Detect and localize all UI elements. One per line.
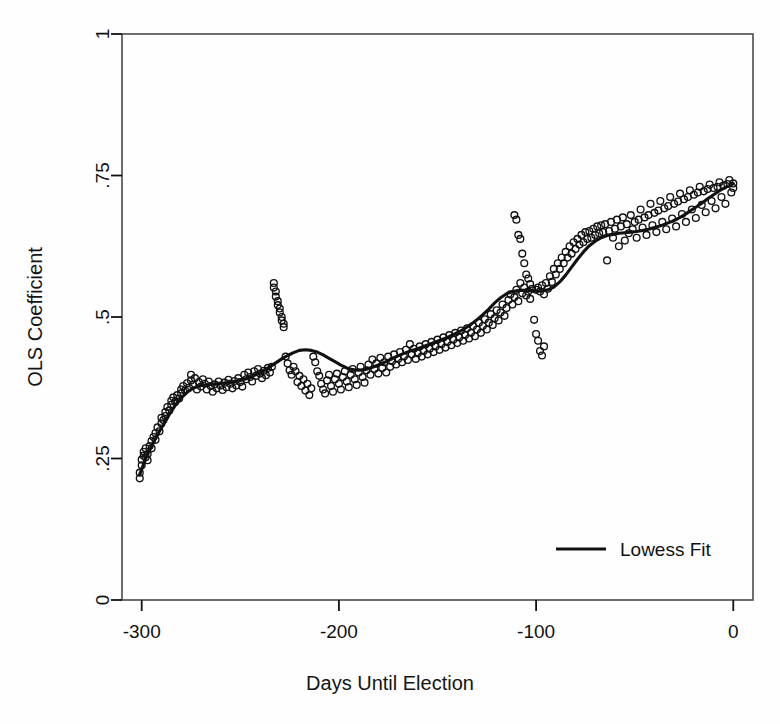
y-axis-ticks: 0.25.5.751	[92, 29, 123, 606]
data-point	[533, 331, 540, 338]
data-point	[616, 243, 623, 250]
y-tick-label: 1	[92, 29, 113, 40]
data-point	[718, 194, 725, 201]
data-point	[621, 237, 628, 244]
data-point	[637, 206, 644, 213]
data-point	[531, 316, 538, 323]
data-point	[619, 214, 626, 221]
data-point	[304, 380, 311, 387]
data-point	[692, 215, 699, 222]
data-point	[369, 356, 376, 363]
data-point	[406, 341, 413, 348]
data-point	[517, 280, 524, 287]
y-tick-label: .5	[92, 309, 113, 325]
x-tick-label: -100	[517, 621, 555, 642]
data-point	[572, 246, 579, 253]
data-point	[647, 200, 654, 207]
data-point	[521, 260, 528, 267]
data-point	[673, 223, 680, 230]
data-point	[306, 392, 313, 399]
plot-frame	[122, 34, 753, 600]
x-tick-label: -300	[123, 621, 161, 642]
data-point	[687, 187, 694, 194]
data-point	[702, 209, 709, 216]
data-point	[515, 298, 522, 305]
x-axis-ticks: -300-200-1000	[123, 600, 739, 642]
data-point	[604, 257, 611, 264]
data-point	[519, 250, 526, 257]
figure-container: -300-200-1000 0.25.5.751 Lowess Fit Days…	[0, 0, 780, 724]
data-point	[541, 343, 548, 350]
data-point	[308, 385, 315, 392]
data-point	[377, 354, 384, 361]
data-point	[683, 219, 690, 226]
x-axis-title: Days Until Election	[306, 672, 474, 694]
data-point	[633, 234, 640, 241]
data-point	[627, 212, 634, 219]
y-tick-label: .25	[92, 445, 113, 471]
data-point	[535, 337, 542, 344]
chart-legend: Lowess Fit	[556, 539, 712, 560]
data-point	[643, 232, 650, 239]
x-tick-label: 0	[728, 621, 739, 642]
y-axis-title: OLS Coefficient	[24, 247, 46, 387]
scatter-chart: -300-200-1000 0.25.5.751 Lowess Fit Days…	[0, 0, 780, 724]
data-point	[663, 226, 670, 233]
data-point	[712, 205, 719, 212]
lowess-fit-path	[140, 183, 734, 474]
y-tick-label: .75	[92, 162, 113, 188]
lowess-fit-line	[140, 183, 734, 474]
data-point	[667, 194, 674, 201]
data-point	[653, 229, 660, 236]
legend-label: Lowess Fit	[620, 539, 712, 560]
scatter-points	[136, 177, 736, 482]
data-point	[722, 200, 729, 207]
y-tick-label: 0	[92, 595, 113, 606]
x-tick-label: -200	[320, 621, 358, 642]
data-point	[657, 198, 664, 205]
data-point	[623, 221, 630, 228]
